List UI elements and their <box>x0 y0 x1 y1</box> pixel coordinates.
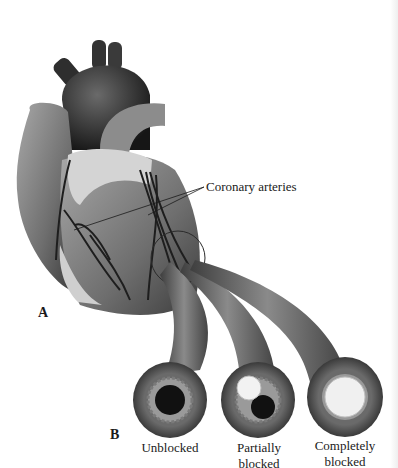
heart-illustration <box>0 0 398 468</box>
caption-completely-line1: Completely <box>300 438 390 454</box>
caption-partially-line1: Partially <box>214 440 304 456</box>
caption-partially-line2: blocked <box>214 456 304 468</box>
caption-unblocked: Unblocked <box>125 440 215 456</box>
caption-partially-blocked: Partially blocked <box>214 440 304 468</box>
cross-section-completely-blocked <box>307 357 383 437</box>
cross-section-partially-blocked <box>221 362 295 438</box>
panel-a-label: A <box>38 305 48 321</box>
caption-completely-line2: blocked <box>300 454 390 468</box>
cross-section-unblocked <box>133 362 207 438</box>
caption-completely-blocked: Completely blocked <box>300 438 390 468</box>
coronary-arteries-label: Coronary arteries <box>206 179 297 194</box>
panel-b-label: B <box>110 427 119 443</box>
